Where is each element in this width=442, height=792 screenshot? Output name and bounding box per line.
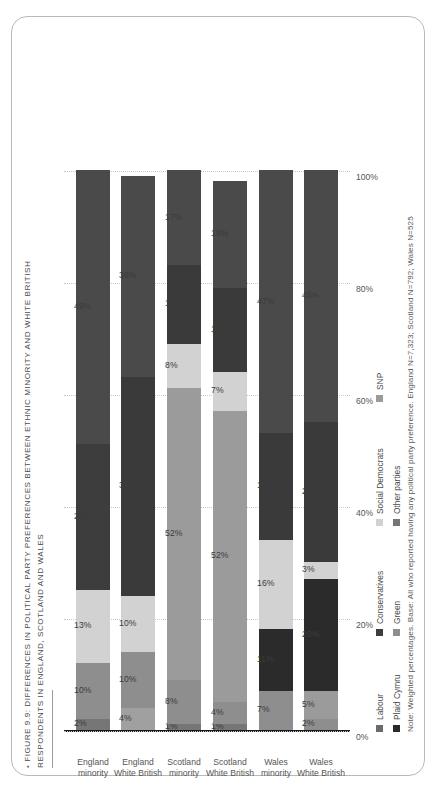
bar-value-label: 16% [257, 578, 275, 588]
bar-value-label: 4% [211, 707, 224, 717]
bar-value-label: 14% [165, 298, 183, 308]
bar-value-label: 45% [302, 290, 320, 300]
legend-label: SNP [375, 373, 385, 390]
bar-value-label: 10% [119, 674, 137, 684]
legend-label: Conservatives [375, 571, 385, 624]
bar-value-label: 13% [74, 620, 92, 630]
bar-value-label: 49% [74, 301, 92, 311]
bullet-icon: • [23, 765, 32, 768]
legend-swatch [376, 519, 383, 526]
legend-label: Plaid Cymru [392, 674, 402, 720]
bar-row: 1%4%52%7%15%19% [213, 170, 247, 730]
bar-value-label: 52% [165, 528, 183, 538]
figure-note: Note: Weighted percentages. Base: All wh… [406, 32, 415, 732]
bar-value-label: 10% [74, 685, 92, 695]
bar-value-label: 7% [211, 385, 224, 395]
figure-title-line-2: RESPONDENTS IN ENGLAND, SCOTLAND AND WAL… [35, 28, 48, 768]
legend-entry[interactable]: Labour [372, 694, 390, 732]
bar-value-label: 36% [119, 270, 137, 280]
legend-entry[interactable]: SNP [372, 373, 390, 402]
bar-row: 7%11%16%19%47% [259, 170, 293, 730]
tick-label-80: 80% [356, 284, 373, 294]
tick-label-60: 60% [356, 396, 373, 406]
bar-value-label: 11% [257, 654, 274, 664]
bar-value-label: 8% [165, 696, 178, 706]
bar-value-label: 8% [165, 360, 178, 370]
legend-swatch [376, 629, 383, 636]
bar-value-label: 19% [257, 480, 275, 490]
bar-row: 2%10%13%26%49% [76, 170, 110, 730]
tick-label-20: 20% [356, 620, 373, 630]
bar-value-label: 5% [302, 699, 315, 709]
figure-title-text-1: FIGURE 9.9: DIFFERENCES IN POLITICAL PAR… [23, 261, 32, 762]
bar-value-label: 17% [165, 212, 183, 222]
figure-page: • FIGURE 9.9: DIFFERENCES IN POLITICAL P… [0, 0, 442, 792]
bar-value-label: 25% [302, 486, 320, 496]
legend-entry[interactable]: Other parties [389, 466, 407, 526]
legend: LabourConservativesSocial DemocratsSNPPl… [372, 132, 406, 732]
legend-swatch [393, 519, 400, 526]
bar-row: 4%10%10%39%36% [121, 170, 155, 730]
figure-title-block: • FIGURE 9.9: DIFFERENCES IN POLITICAL P… [22, 28, 47, 768]
legend-entry[interactable]: Green [389, 601, 407, 636]
bar-value-label: 20% [302, 629, 320, 639]
figure-title-line-1: • FIGURE 9.9: DIFFERENCES IN POLITICAL P… [22, 28, 35, 768]
legend-swatch [393, 725, 400, 732]
category-label: Wales White British [275, 757, 367, 779]
tick-label-40: 40% [356, 508, 373, 518]
tick-label-0: 0% [356, 732, 368, 742]
gridline-0 [64, 731, 350, 732]
bar-row: 2%5%20%3%25%45% [304, 170, 338, 730]
bar-row: 1%8%52%8%14%17% [167, 170, 201, 730]
bar-value-label: 47% [257, 296, 275, 306]
legend-label: Green [392, 601, 402, 624]
legend-swatch [376, 395, 383, 402]
legend-swatch [376, 725, 383, 732]
legend-label: Other parties [392, 466, 402, 514]
bar-value-label: 4% [119, 713, 132, 723]
bar-value-label: 7% [257, 704, 270, 714]
legend-swatch [393, 629, 400, 636]
bar-value-label: 26% [74, 511, 92, 521]
bar-value-label: 52% [211, 550, 229, 560]
rotated-figure-canvas: • FIGURE 9.9: DIFFERENCES IN POLITICAL P… [20, 28, 420, 768]
bar-value-label: 10% [119, 618, 137, 628]
legend-entry[interactable]: Plaid Cymru [389, 674, 407, 732]
bar-value-label: 2% [74, 718, 87, 728]
legend-label: Labour [375, 694, 385, 720]
legend-entry[interactable]: Social Democrats [372, 448, 390, 526]
bar-value-label: 2% [302, 718, 315, 728]
plot-area: 2%10%13%26%49%4%10%10%39%36%1%8%52%8%14%… [64, 172, 350, 732]
bar-value-label: 39% [119, 480, 137, 490]
bar-value-label: 19% [211, 228, 229, 238]
bar-value-label: 15% [211, 324, 229, 334]
legend-label: Social Democrats [375, 448, 385, 514]
legend-entry[interactable]: Conservatives [372, 571, 390, 636]
bar-value-label: 3% [302, 564, 315, 574]
